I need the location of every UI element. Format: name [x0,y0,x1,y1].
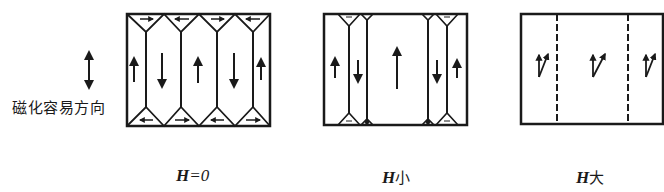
domain-diagram: 磁化容易方向 H=0 H小 H大 [0,0,664,192]
caption-value: =0 [189,166,209,185]
domain-arrows [335,48,457,89]
rotated-arrow-icon [646,54,655,77]
closure-domains-bottom [338,113,458,125]
caption-symbol: H [576,168,589,187]
caption-value: 大 [589,169,604,187]
easy-axis-label: 磁化容易方向 [12,96,105,117]
rotated-arrow-icon [593,54,605,77]
closure-domains-bottom [127,107,270,126]
specimen-outline [324,14,467,125]
caption-value: 小 [395,169,410,187]
caption-h-small: H小 [382,166,410,188]
panel-h-small [324,14,467,125]
caption-symbol: H [176,166,189,185]
caption-h-zero: H=0 [176,166,209,186]
tiny-closure-dots [365,120,430,124]
closure-domains-top [127,14,270,32]
panel-h-zero [127,14,270,126]
caption-symbol: H [382,168,395,187]
domain-arrows [134,53,261,87]
panel-h-large [521,14,663,124]
closure-domains-top [338,14,458,26]
rotated-arrow-icon [539,54,548,77]
caption-h-large: H大 [576,166,604,188]
